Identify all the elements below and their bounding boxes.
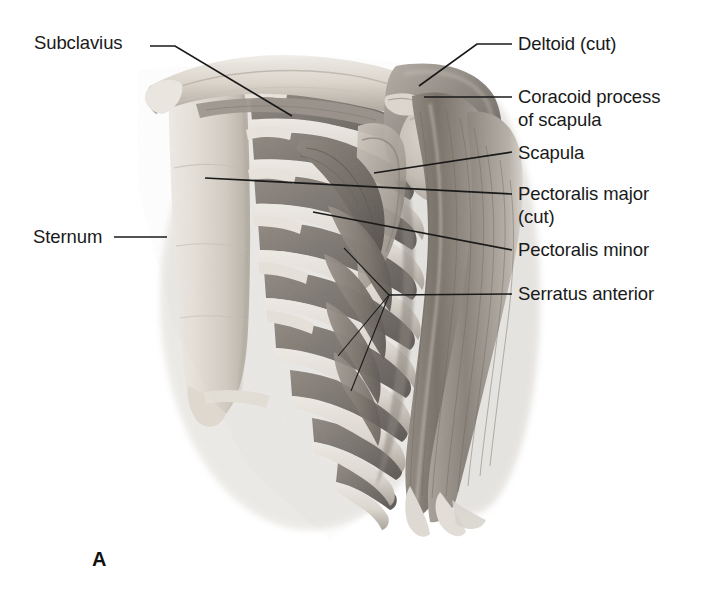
label-serratus-anterior: Serratus anterior xyxy=(518,283,654,306)
figure-letter: A xyxy=(92,548,106,571)
label-deltoid-cut: Deltoid (cut) xyxy=(518,33,616,56)
label-overlay: SubclaviusSternumDeltoid (cut)Coracoid p… xyxy=(0,0,719,594)
label-sternum: Sternum xyxy=(33,226,102,249)
label-pectoralis-major-cut: Pectoralis major (cut) xyxy=(518,183,649,228)
anatomy-figure: SubclaviusSternumDeltoid (cut)Coracoid p… xyxy=(0,0,719,594)
label-subclavius: Subclavius xyxy=(34,32,122,55)
label-pectoralis-minor: Pectoralis minor xyxy=(518,239,649,262)
label-coracoid-process: Coracoid process of scapula xyxy=(518,86,660,131)
label-scapula: Scapula xyxy=(518,142,584,165)
